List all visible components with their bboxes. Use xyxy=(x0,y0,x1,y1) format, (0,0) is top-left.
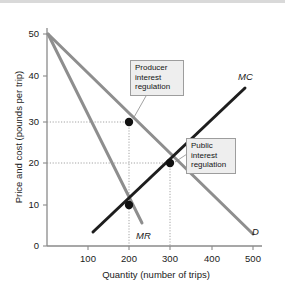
callout-producer-line-1: Producer xyxy=(135,63,180,73)
callout-public-line-2: interest xyxy=(191,151,232,161)
callout-producer-interest-regulation: Producer interest regulation xyxy=(130,60,184,96)
curve-label-mc: MC xyxy=(238,71,253,82)
marginal-revenue-curve xyxy=(48,34,142,223)
y-tick-label-0: 0 xyxy=(34,240,39,251)
x-tick-label-400: 400 xyxy=(204,253,220,264)
callout-producer-line-2: interest xyxy=(135,73,180,83)
y-axis-title: Price and cost (pounds per trip) xyxy=(13,71,24,204)
x-tick-label-100: 100 xyxy=(80,253,96,264)
callout-public-line-3: regulation xyxy=(191,160,232,170)
x-axis-title: Quantity (number of trips) xyxy=(102,269,210,280)
y-tick-label-20: 20 xyxy=(28,157,39,168)
y-tick-label-50: 50 xyxy=(28,28,39,39)
callout-producer-line-3: regulation xyxy=(135,82,180,92)
callout-public-interest-regulation: Public interest regulation xyxy=(186,138,236,174)
callout-public-line-1: Public xyxy=(191,141,232,151)
y-tick-label-40: 40 xyxy=(28,70,39,81)
y-tick-label-30: 30 xyxy=(28,116,39,127)
x-tick-label-300: 300 xyxy=(162,253,178,264)
leader-line-producer xyxy=(133,96,146,119)
point-mr-mc-intersection xyxy=(125,201,133,209)
curve-label-mr: MR xyxy=(136,230,151,241)
point-public-interest xyxy=(166,159,174,167)
x-tick-label-500: 500 xyxy=(245,253,261,264)
curve-label-d: D xyxy=(252,226,259,237)
chart-canvas: 50 40 30 20 10 0 100 200 300 400 500 Qua… xyxy=(0,0,285,288)
economics-chart-figure: 50 40 30 20 10 0 100 200 300 400 500 Qua… xyxy=(0,0,285,288)
x-tick-label-200: 200 xyxy=(121,253,137,264)
point-producer-interest xyxy=(125,118,133,126)
y-tick-label-10: 10 xyxy=(28,199,39,210)
